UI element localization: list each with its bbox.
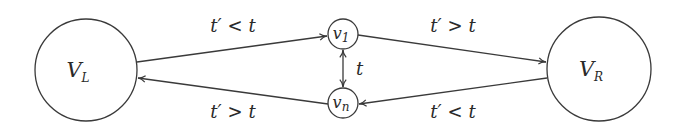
graph-diagram: VL v1 vn VR t′<t t′>t t′>t t′<t t bbox=[0, 0, 684, 136]
node-vr: VR bbox=[547, 17, 651, 121]
node-vn-label: v bbox=[333, 93, 342, 112]
edge-vl-to-v1 bbox=[137, 36, 327, 62]
edge-label-vn-vl: t′>t bbox=[210, 101, 256, 122]
node-vn-subscript: n bbox=[342, 100, 350, 114]
edge-label-v1-vr: t′>t bbox=[430, 15, 476, 36]
node-vr-subscript: R bbox=[593, 70, 603, 84]
node-vl-subscript: L bbox=[81, 71, 90, 85]
edge-label-vr-vn: t′<t bbox=[430, 101, 476, 122]
node-v1-label: v bbox=[333, 24, 342, 43]
edge-label-v1-vn: t bbox=[356, 58, 364, 79]
node-vn: vn bbox=[328, 88, 358, 118]
node-vl: VL bbox=[35, 19, 137, 121]
edge-v1-to-vr bbox=[358, 35, 546, 62]
node-v1: v1 bbox=[328, 19, 358, 49]
edge-label-vl-v1: t′<t bbox=[210, 15, 256, 36]
node-v1-subscript: 1 bbox=[342, 31, 350, 45]
